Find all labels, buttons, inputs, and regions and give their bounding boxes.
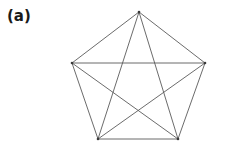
graph-vertex-v4 <box>97 138 100 141</box>
graph-vertex-v3 <box>177 138 180 141</box>
pentagon-graph-diagram <box>0 0 230 150</box>
graph-edge-v2-v4 <box>98 63 205 139</box>
graph-edge-v3-v5 <box>72 63 178 139</box>
graph-edge-v1-v3 <box>139 12 178 139</box>
edge-layer <box>72 12 205 139</box>
figure-panel: (a) <box>0 0 230 150</box>
graph-vertex-v5 <box>71 62 74 65</box>
graph-edge-v2-v3 <box>178 63 205 139</box>
graph-edge-v1-v4 <box>98 12 139 139</box>
graph-vertex-v2 <box>204 62 207 65</box>
graph-vertex-v1 <box>138 11 141 14</box>
graph-edge-v4-v5 <box>72 63 98 139</box>
graph-edge-v5-v1 <box>72 12 139 63</box>
graph-edge-v1-v2 <box>139 12 205 63</box>
vertex-layer <box>71 11 207 141</box>
